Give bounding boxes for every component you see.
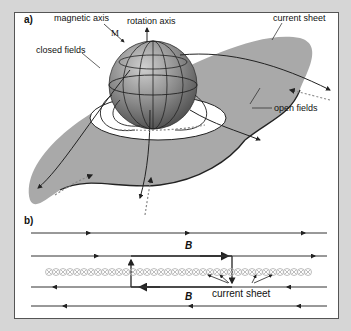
panel-b-label: b) [24, 216, 33, 226]
current-sheet-circles [46, 269, 312, 276]
magnetic-axis-symbol: M [111, 29, 119, 38]
field-b-lower: B [185, 292, 192, 302]
current-sheet-leaders [208, 275, 272, 283]
rotation-axis-label: rotation axis [127, 17, 176, 26]
magnetic-axis-label: magnetic axis [54, 14, 109, 23]
closed-fields-label: closed fields [36, 46, 86, 55]
panel-a-label: a) [24, 15, 33, 25]
current-sheet-b-label: current sheet [212, 289, 270, 299]
current-sheet-label: current sheet [273, 14, 326, 23]
open-fields-label: open fields [274, 104, 318, 113]
field-b-upper: B [185, 241, 192, 251]
